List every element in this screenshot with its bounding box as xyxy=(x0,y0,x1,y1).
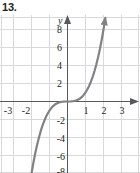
y-tick-labels: 8 6 4 2 -2 -4 -6 -8 xyxy=(57,24,65,173)
y-tick-label: 8 xyxy=(57,24,62,35)
problem-number-label: 13. xyxy=(2,0,17,14)
graph-svg: y -3 -2 1 2 3 8 6 4 2 -2 -4 -6 -8 xyxy=(0,15,140,173)
figure-container: 13. xyxy=(0,0,140,173)
y-tick-label: -2 xyxy=(57,115,65,126)
y-axis xyxy=(64,15,71,173)
grid-vertical-lines xyxy=(2,15,139,173)
x-tick-label: -3 xyxy=(4,105,12,116)
x-tick-label: 1 xyxy=(84,105,89,116)
x-tick-label: -2 xyxy=(22,105,30,116)
y-tick-label: -8 xyxy=(57,166,65,173)
coordinate-graph: y -3 -2 1 2 3 8 6 4 2 -2 -4 -6 -8 xyxy=(0,15,140,173)
y-tick-label: 6 xyxy=(57,42,62,53)
y-tick-label: 4 xyxy=(57,60,62,71)
y-tick-label: 2 xyxy=(57,78,62,89)
grid-horizontal-lines xyxy=(0,18,140,173)
y-tick-label: -4 xyxy=(57,133,65,144)
x-tick-label: 2 xyxy=(102,105,107,116)
x-tick-label: 3 xyxy=(120,105,125,116)
y-tick-label: -6 xyxy=(57,151,65,162)
